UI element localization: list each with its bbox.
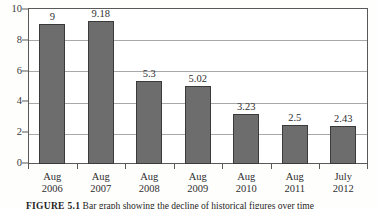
- x-tick-mark: [367, 164, 368, 169]
- bar[interactable]: [282, 125, 308, 164]
- x-label-year: 2011: [269, 183, 321, 195]
- bar[interactable]: [88, 21, 114, 164]
- bar-group: 5.02: [174, 8, 223, 164]
- bar-group: 3.23: [222, 8, 271, 164]
- figure-caption-text: FIGURE 5.1 Bar graph showing the decline…: [26, 201, 366, 209]
- y-tick-label: 8: [2, 35, 22, 46]
- x-tick-label: Aug 2007: [75, 171, 127, 194]
- x-label-year: 2009: [172, 183, 224, 195]
- x-tick-label: Aug 2006: [26, 171, 78, 194]
- figure-caption: FIGURE 5.1 Bar graph showing the decline…: [26, 201, 366, 209]
- x-label-year: 2007: [75, 183, 127, 195]
- bars-layer: 9 9.18 5.3 5.02 3.23 2.5 2.43: [28, 8, 368, 164]
- x-label-month: July: [317, 171, 369, 183]
- x-tick-mark: [28, 164, 29, 169]
- x-label-year: 2010: [220, 183, 272, 195]
- x-tick-mark: [125, 164, 126, 169]
- x-tick-label: Aug 2008: [123, 171, 175, 194]
- x-label-month: Aug: [123, 171, 175, 183]
- x-label-month: Aug: [26, 171, 78, 183]
- y-tick-label: 4: [2, 96, 22, 107]
- bar[interactable]: [233, 114, 259, 164]
- x-tick-mark: [319, 164, 320, 169]
- bar-group: 9: [28, 8, 77, 164]
- x-tick-mark: [77, 164, 78, 169]
- bar[interactable]: [185, 86, 211, 164]
- x-label-month: Aug: [220, 171, 272, 183]
- figure-caption-number: FIGURE 5.1: [26, 201, 80, 209]
- y-tick-label: 0: [2, 158, 22, 169]
- x-label-month: Aug: [75, 171, 127, 183]
- x-label-month: Aug: [269, 171, 321, 183]
- bar-value-label: 5.02: [189, 74, 207, 85]
- bar-value-label: 2.43: [334, 114, 352, 125]
- x-tick-label: Aug 2010: [220, 171, 272, 194]
- x-tick-label: July 2012: [317, 171, 369, 194]
- y-tick-label: 6: [2, 65, 22, 76]
- x-label-month: Aug: [172, 171, 224, 183]
- y-axis: 10 8 6 4 2 0: [0, 0, 28, 172]
- x-axis: Aug 2006 Aug 2007 Aug 2008 Aug 2009 Aug …: [28, 164, 368, 198]
- bar[interactable]: [39, 24, 65, 164]
- bar-group: 2.43: [319, 8, 368, 164]
- bar-group: 5.3: [125, 8, 174, 164]
- bar[interactable]: [136, 81, 162, 164]
- x-tick-mark: [222, 164, 223, 169]
- x-tick-mark: [174, 164, 175, 169]
- y-tick-label: 2: [2, 127, 22, 138]
- figure-container: 10 8 6 4 2 0 9 9.18 5.3: [0, 0, 378, 209]
- y-tick-label: 10: [2, 4, 22, 15]
- bar-value-label: 3.23: [237, 102, 255, 113]
- figure-caption-body: Bar graph showing the decline of histori…: [83, 201, 314, 209]
- x-tick-label: Aug 2009: [172, 171, 224, 194]
- x-tick-mark: [271, 164, 272, 169]
- bar-value-label: 9: [50, 12, 55, 23]
- bar-group: 9.18: [77, 8, 126, 164]
- bar-value-label: 2.5: [288, 113, 301, 124]
- bar-group: 2.5: [271, 8, 320, 164]
- bar-value-label: 9.18: [92, 9, 110, 20]
- x-label-year: 2006: [26, 183, 78, 195]
- x-label-year: 2012: [317, 183, 369, 195]
- x-label-year: 2008: [123, 183, 175, 195]
- bar[interactable]: [330, 126, 356, 164]
- x-tick-label: Aug 2011: [269, 171, 321, 194]
- bar-value-label: 5.3: [143, 69, 156, 80]
